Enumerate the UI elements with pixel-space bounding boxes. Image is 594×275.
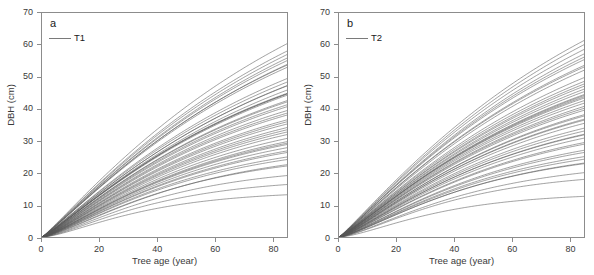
y-tick-label: 70 <box>304 8 330 17</box>
legend-b: T2 <box>346 33 382 43</box>
x-tick-label: 80 <box>555 245 585 254</box>
x-tick-mark <box>99 238 100 242</box>
x-tick-mark <box>338 238 339 242</box>
growth-curve <box>339 173 584 237</box>
y-tick-label: 20 <box>7 169 33 178</box>
legend-line-icon <box>49 38 71 39</box>
y-tick-label: 60 <box>7 40 33 49</box>
x-tick-mark <box>570 238 571 242</box>
growth-curves-svg-a <box>42 13 287 237</box>
curve-group-a <box>42 13 287 237</box>
x-tick-mark <box>273 238 274 242</box>
y-tick-label: 10 <box>304 201 330 210</box>
x-tick-label: 60 <box>497 245 527 254</box>
y-tick-label: 0 <box>304 234 330 243</box>
plot-area-a <box>41 12 288 238</box>
x-tick-label: 20 <box>84 245 114 254</box>
growth-curve <box>42 176 287 237</box>
y-axis-label-a: DBH (cm) <box>6 70 16 140</box>
growth-curves-svg-b <box>339 13 584 237</box>
x-tick-label: 40 <box>142 245 172 254</box>
legend-line-icon <box>346 38 368 39</box>
x-tick-mark <box>215 238 216 242</box>
x-axis-label-b: Tree age (year) <box>338 256 585 266</box>
y-tick-label: 0 <box>7 234 33 243</box>
x-tick-mark <box>454 238 455 242</box>
panel-b: b T2 010203040506070020406080 DBH (cm) T… <box>297 0 594 275</box>
x-tick-mark <box>157 238 158 242</box>
x-tick-mark <box>41 238 42 242</box>
x-tick-mark <box>396 238 397 242</box>
y-tick-label: 60 <box>304 40 330 49</box>
legend-label-t2: T2 <box>371 33 382 43</box>
y-tick-label: 70 <box>7 8 33 17</box>
x-tick-label: 0 <box>323 245 353 254</box>
y-tick-label: 10 <box>7 201 33 210</box>
figure-container: a T1 010203040506070020406080 DBH (cm) T… <box>0 0 594 275</box>
x-tick-label: 80 <box>258 245 288 254</box>
legend-a: T1 <box>49 33 85 43</box>
y-tick-mark <box>334 238 338 239</box>
x-axis-label-a: Tree age (year) <box>41 256 288 266</box>
curve-group-b <box>339 13 584 237</box>
panel-letter-b: b <box>347 18 353 29</box>
legend-label-t1: T1 <box>74 33 85 43</box>
x-tick-label: 20 <box>381 245 411 254</box>
y-tick-mark <box>37 238 41 239</box>
y-axis-label-b: DBH (cm) <box>303 70 313 140</box>
x-tick-label: 0 <box>26 245 56 254</box>
panel-letter-a: a <box>50 18 56 29</box>
y-tick-label: 20 <box>304 169 330 178</box>
panel-a: a T1 010203040506070020406080 DBH (cm) T… <box>0 0 297 275</box>
x-tick-mark <box>512 238 513 242</box>
x-tick-label: 60 <box>200 245 230 254</box>
x-tick-label: 40 <box>439 245 469 254</box>
plot-area-b <box>338 12 585 238</box>
